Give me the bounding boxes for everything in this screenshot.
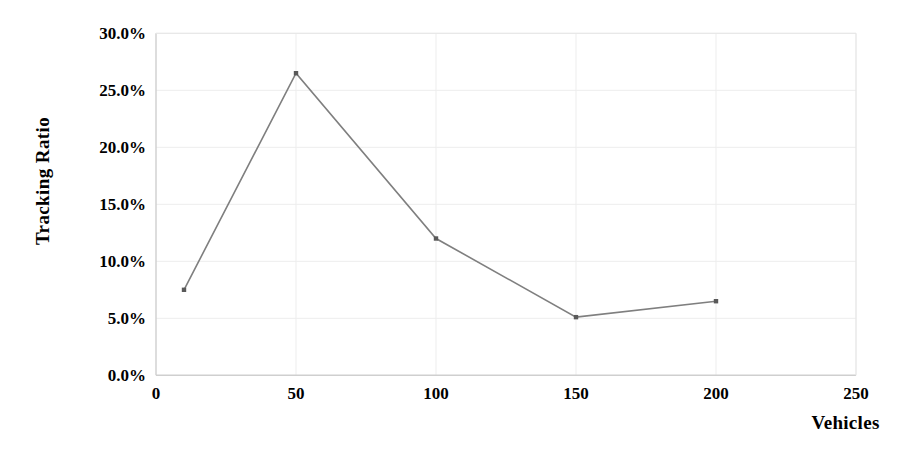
x-tick-label: 0	[116, 385, 196, 402]
x-axis-title: Vehicles	[788, 412, 903, 434]
x-axis-tick-labels: 0 50 100 150 200 250	[0, 0, 911, 460]
x-tick-label: 50	[256, 385, 336, 402]
tracking-ratio-line-chart: 30.0% 25.0% 20.0% 15.0% 10.0% 5.0% 0.0% …	[0, 0, 911, 460]
x-tick-label: 150	[536, 385, 616, 402]
x-tick-label: 250	[816, 385, 896, 402]
y-axis-title: Tracking Ratio	[32, 91, 54, 271]
x-tick-label: 200	[676, 385, 756, 402]
x-tick-label: 100	[396, 385, 476, 402]
